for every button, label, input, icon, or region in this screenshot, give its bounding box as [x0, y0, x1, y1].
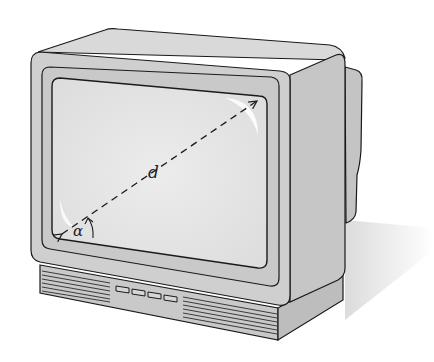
- crt-back-housing: [345, 67, 362, 223]
- cabinet-right-side: [290, 54, 345, 302]
- diagonal-label: d: [148, 162, 159, 182]
- screen: [52, 78, 267, 268]
- angle-label: α: [73, 222, 83, 240]
- floor-shadow: [345, 220, 434, 320]
- tv-diagram: d α: [0, 0, 434, 362]
